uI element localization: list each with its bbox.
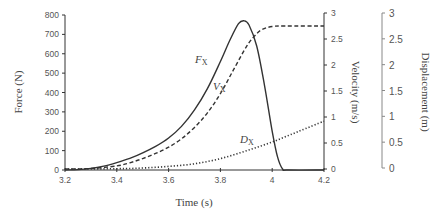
x-axis-title: Time (s) — [175, 196, 213, 209]
force-tick-label: 800 — [45, 10, 59, 20]
force-tick-label: 0 — [54, 165, 59, 175]
displacement-axis: 00.511.522.53 — [382, 8, 403, 174]
plot-area — [65, 21, 324, 171]
displacement-tick-label: 1.5 — [389, 86, 403, 97]
velocity-tick-label: 0 — [331, 164, 336, 174]
time-tick-label: 3.4 — [111, 175, 123, 185]
velocity-tick-label: 3 — [331, 8, 336, 18]
time-tick-label: 3.6 — [163, 175, 175, 185]
force-tick-label: 600 — [45, 49, 59, 59]
time-tick-label: 4.2 — [318, 175, 330, 185]
velocity-tick-label: 1.5 — [331, 86, 343, 96]
velocity-tick-label: 1 — [331, 112, 336, 122]
force-velocity-displacement-chart: 0100200300400500600700800 3.23.43.63.844… — [0, 0, 448, 214]
fx-label: FX — [194, 53, 208, 67]
force-tick-label: 200 — [45, 126, 59, 136]
time-tick-label: 3.8 — [214, 175, 226, 185]
series-vx-line — [65, 26, 324, 169]
velocity-tick-label: 2 — [331, 60, 336, 70]
velocity-axis: 00.511.522.53 — [324, 8, 343, 174]
displacement-tick-label: 0 — [389, 163, 395, 174]
force-tick-label: 400 — [45, 88, 59, 98]
force-tick-label: 700 — [45, 29, 59, 39]
velocity-axis-title: Velocity (m/s) — [349, 61, 362, 124]
force-axis-title: Force (N) — [12, 70, 25, 113]
displacement-tick-label: 0.5 — [389, 137, 403, 148]
force-axis: 0100200300400500600700800 — [45, 10, 65, 175]
force-tick-label: 300 — [45, 107, 59, 117]
displacement-axis-title: Displacement (m) — [419, 52, 432, 131]
series-fx-line — [65, 21, 324, 171]
displacement-tick-label: 1 — [389, 111, 395, 122]
force-tick-label: 500 — [45, 68, 59, 78]
velocity-tick-label: 0.5 — [331, 138, 343, 148]
displacement-tick-label: 2.5 — [389, 34, 403, 45]
force-tick-label: 100 — [45, 146, 59, 156]
time-tick-label: 3.2 — [59, 175, 71, 185]
displacement-tick-label: 3 — [389, 8, 395, 19]
vx-label: VX — [213, 80, 226, 94]
velocity-tick-label: 2.5 — [331, 34, 343, 44]
dx-label: DX — [239, 133, 254, 147]
displacement-tick-label: 2 — [389, 60, 395, 71]
time-tick-label: 4 — [270, 175, 275, 185]
